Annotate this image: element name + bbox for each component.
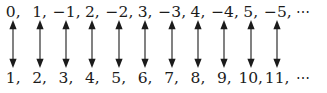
top-cell-6: −3, xyxy=(158,2,184,22)
top-cell-7: 4, xyxy=(185,2,211,22)
arrow-row xyxy=(0,20,327,68)
bottom-cell-2: 3, xyxy=(53,68,79,88)
bottom-cell-4: 5, xyxy=(106,68,132,88)
top-row-integers: 0, 1, −1, 2, −2, 3, −3, 4, −4, 5, −5, ⋯ xyxy=(0,2,327,22)
top-cell-10: −5, xyxy=(264,2,290,22)
bijection-figure: 0, 1, −1, 2, −2, 3, −3, 4, −4, 5, −5, ⋯ xyxy=(0,0,327,93)
bottom-row-positive-integers: 1, 2, 3, 4, 5, 6, 7, 8, 9, 10, 11, ⋯ xyxy=(0,68,327,88)
bottom-cell-6: 7, xyxy=(158,68,184,88)
bottom-cell-7: 8, xyxy=(185,68,211,88)
top-cell-3: 2, xyxy=(79,2,105,22)
top-cell-9: 5, xyxy=(238,2,264,22)
top-cell-0: 0, xyxy=(0,2,26,22)
top-row-ellipsis: ⋯ xyxy=(290,2,316,22)
double-arrow-icon-7 xyxy=(185,20,211,68)
double-arrow-icon-9 xyxy=(238,20,264,68)
bottom-cell-1: 2, xyxy=(26,68,52,88)
double-arrow-icon-2 xyxy=(53,20,79,68)
top-cell-2: −1, xyxy=(53,2,79,22)
bottom-cell-3: 4, xyxy=(79,68,105,88)
top-cell-4: −2, xyxy=(106,2,132,22)
bottom-cell-5: 6, xyxy=(132,68,158,88)
bottom-cell-10: 11, xyxy=(264,68,290,88)
top-cell-1: 1, xyxy=(26,2,52,22)
bottom-cell-9: 10, xyxy=(238,68,264,88)
bottom-cell-0: 1, xyxy=(0,68,26,88)
double-arrow-icon-0 xyxy=(0,20,26,68)
double-arrow-icon-6 xyxy=(158,20,184,68)
bottom-row-ellipsis: ⋯ xyxy=(290,68,316,88)
bottom-cell-8: 9, xyxy=(211,68,237,88)
top-cell-5: 3, xyxy=(132,2,158,22)
double-arrow-icon-3 xyxy=(79,20,105,68)
top-cell-8: −4, xyxy=(211,2,237,22)
double-arrow-icon-8 xyxy=(211,20,237,68)
double-arrow-icon-10 xyxy=(264,20,290,68)
double-arrow-icon-5 xyxy=(132,20,158,68)
double-arrow-icon-1 xyxy=(26,20,52,68)
double-arrow-icon-4 xyxy=(106,20,132,68)
